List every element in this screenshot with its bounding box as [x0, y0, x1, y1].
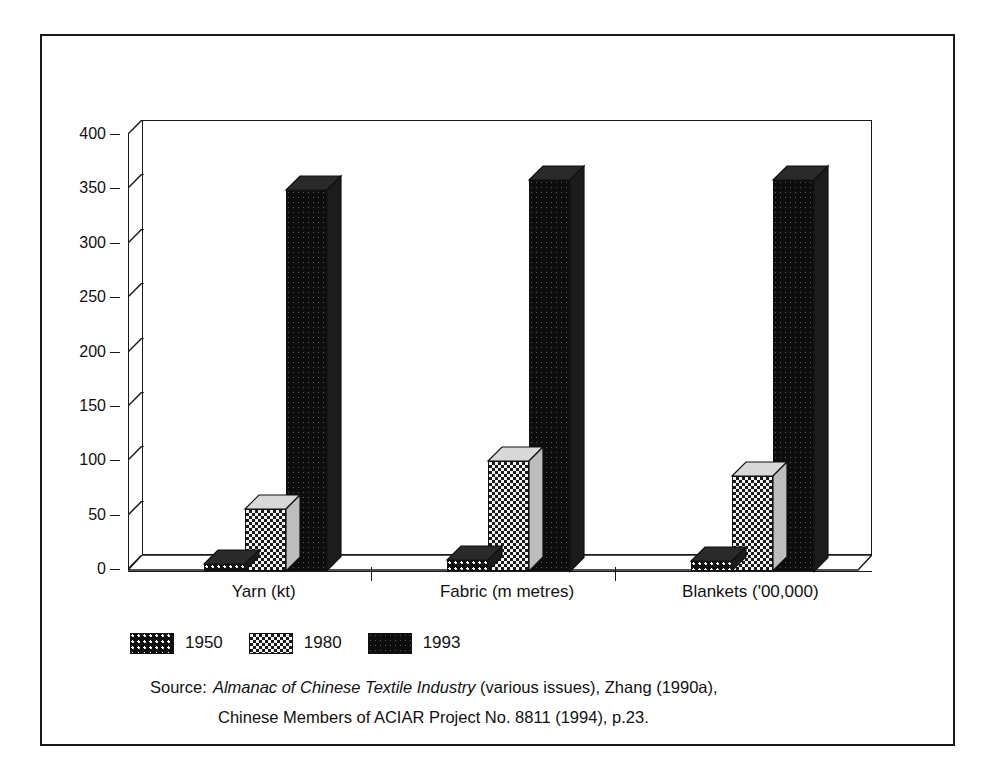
- source-line-1: Source:Almanac of Chinese Textile Indust…: [130, 672, 890, 702]
- legend-swatch-1980-icon: [249, 633, 293, 654]
- bar-face: [691, 561, 732, 571]
- legend-item-1993: 1993: [368, 633, 461, 654]
- source-line-1-rest: (various issues), Zhang (1990a),: [480, 678, 718, 696]
- x-category-label: Blankets ('00,000): [629, 582, 872, 602]
- source-line-2: Chinese Members of ACIAR Project No. 881…: [130, 702, 890, 732]
- legend-label-1980: 1980: [304, 633, 342, 653]
- source-publication-title: Almanac of Chinese Textile Industry: [213, 678, 476, 696]
- bar-face: [204, 564, 245, 571]
- legend-item-1980: 1980: [249, 633, 342, 654]
- x-axis-separator: [615, 567, 616, 581]
- bar-face: [447, 560, 488, 571]
- legend-label-1950: 1950: [185, 633, 223, 653]
- source-label: Source:: [150, 678, 207, 696]
- source-note: Source:Almanac of Chinese Textile Indust…: [130, 672, 890, 732]
- x-category-label: Yarn (kt): [142, 582, 385, 602]
- legend-swatch-1993-icon: [368, 633, 412, 654]
- x-category-label: Fabric (m metres): [385, 582, 628, 602]
- x-axis-separator: [371, 567, 372, 581]
- bar-1950-2: [447, 560, 488, 571]
- legend-swatch-1950-icon: [130, 633, 174, 654]
- figure-page: 400350300250200150100500 Yarn (kt)Fabric…: [0, 0, 989, 782]
- legend-label-1993: 1993: [423, 633, 461, 653]
- bar-1950-1: [204, 564, 245, 571]
- bar-1950-3: [691, 561, 732, 571]
- legend-item-1950: 1950: [130, 633, 223, 654]
- figure-border: 400350300250200150100500 Yarn (kt)Fabric…: [40, 34, 955, 746]
- bar-chart: 400350300250200150100500 Yarn (kt)Fabric…: [42, 36, 957, 748]
- chart-legend: 1950 1980 1993: [130, 628, 890, 658]
